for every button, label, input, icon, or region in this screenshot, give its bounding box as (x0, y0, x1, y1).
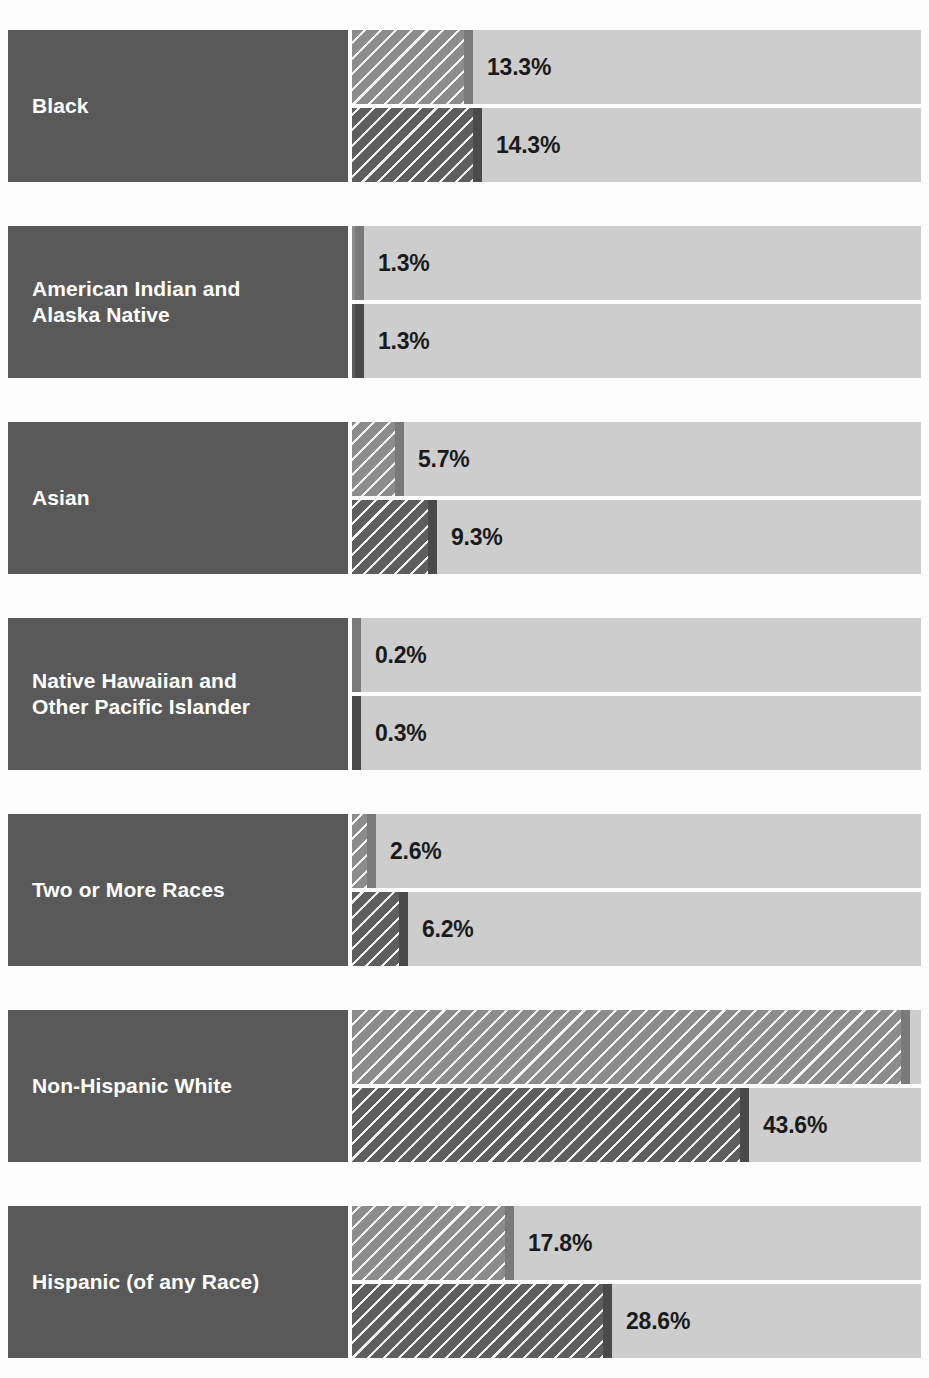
category-label-text: Native Hawaiian andOther Pacific Islande… (32, 668, 250, 719)
bar-track-series-1: 1.3% (352, 226, 921, 300)
bar-track-series-2: 1.3% (352, 304, 921, 378)
bars-area: 1.3%1.3% (352, 226, 921, 378)
bar-series-1-5 (352, 814, 376, 888)
bar-value-label: 0.2% (375, 642, 427, 669)
bar-track-series-1: 17.8% (352, 1206, 921, 1280)
bar-value-label: 13.3% (487, 54, 551, 81)
bar-track-series-2: 28.6% (352, 1284, 921, 1358)
bar-series-1-3 (352, 422, 404, 496)
category-label-1: Black (8, 30, 348, 182)
chart-title (0, 0, 929, 14)
bar-series-1-2 (352, 226, 364, 300)
category-label-text: American Indian andAlaska Native (32, 276, 240, 327)
category-label-7: Hispanic (of any Race) (8, 1206, 348, 1358)
category-row: Native Hawaiian andOther Pacific Islande… (8, 618, 921, 770)
category-row: American Indian andAlaska Native1.3%1.3% (8, 226, 921, 378)
bar-value-label: 5.7% (418, 446, 470, 473)
category-label-text: Asian (32, 485, 90, 511)
bar-series-1-1 (352, 30, 473, 104)
bar-value-label: 28.6% (626, 1308, 690, 1335)
bar-track-series-2: 6.2% (352, 892, 921, 966)
bar-series-2-6 (352, 1088, 749, 1162)
category-label-4: Native Hawaiian andOther Pacific Islande… (8, 618, 348, 770)
race-ethnicity-bar-chart: Black13.3%14.3%American Indian andAlaska… (0, 0, 929, 1378)
bar-value-label: 9.3% (451, 524, 503, 551)
bars-area: 13.3%14.3% (352, 30, 921, 182)
bars-area: 17.8%28.6% (352, 1206, 921, 1358)
bars-area: 0.2%0.3% (352, 618, 921, 770)
bar-track-series-1: 2.6% (352, 814, 921, 888)
bar-value-label: 6.2% (422, 916, 474, 943)
category-row: Asian5.7%9.3% (8, 422, 921, 574)
bar-series-1-6 (352, 1010, 910, 1084)
category-label-text: Black (32, 93, 89, 119)
category-row: Non-Hispanic White61.3%43.6% (8, 1010, 921, 1162)
bar-value-label: 1.3% (378, 250, 430, 277)
bars-area: 2.6%6.2% (352, 814, 921, 966)
category-label-6: Non-Hispanic White (8, 1010, 348, 1162)
category-label-text: Hispanic (of any Race) (32, 1269, 259, 1295)
bar-series-2-3 (352, 500, 437, 574)
bars-area: 5.7%9.3% (352, 422, 921, 574)
bar-series-1-4 (352, 618, 361, 692)
bar-value-label: 2.6% (390, 838, 442, 865)
bar-series-2-5 (352, 892, 408, 966)
category-label-3: Asian (8, 422, 348, 574)
bar-series-2-4 (352, 696, 361, 770)
category-label-text: Two or More Races (32, 877, 225, 903)
bar-value-label: 14.3% (496, 132, 560, 159)
bar-series-2-1 (352, 108, 482, 182)
bar-track-series-1: 61.3% (352, 1010, 921, 1084)
category-label-text: Non-Hispanic White (32, 1073, 232, 1099)
category-row: Two or More Races2.6%6.2% (8, 814, 921, 966)
bar-value-label: 0.3% (375, 720, 427, 747)
bar-track-series-2: 9.3% (352, 500, 921, 574)
bar-track-series-1: 5.7% (352, 422, 921, 496)
bar-value-label: 43.6% (763, 1112, 827, 1139)
category-label-2: American Indian andAlaska Native (8, 226, 348, 378)
bar-series-1-7 (352, 1206, 514, 1280)
bar-value-label: 17.8% (528, 1230, 592, 1257)
category-label-5: Two or More Races (8, 814, 348, 966)
bar-track-series-1: 13.3% (352, 30, 921, 104)
bar-series-2-2 (352, 304, 364, 378)
bar-track-series-2: 14.3% (352, 108, 921, 182)
bar-track-series-2: 0.3% (352, 696, 921, 770)
bar-track-series-2: 43.6% (352, 1088, 921, 1162)
bars-area: 61.3%43.6% (352, 1010, 921, 1162)
bar-value-label: 1.3% (378, 328, 430, 355)
bar-track-series-1: 0.2% (352, 618, 921, 692)
category-row: Black13.3%14.3% (8, 30, 921, 182)
bar-series-2-7 (352, 1284, 612, 1358)
category-row: Hispanic (of any Race)17.8%28.6% (8, 1206, 921, 1358)
